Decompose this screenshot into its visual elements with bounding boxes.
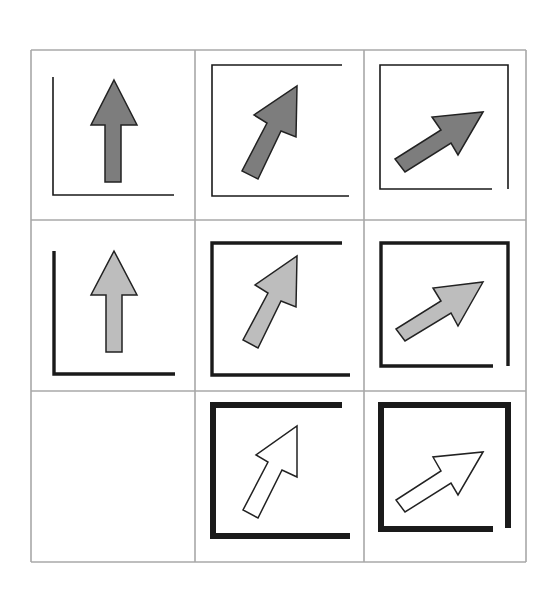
icon-grid-figure [0, 0, 554, 591]
